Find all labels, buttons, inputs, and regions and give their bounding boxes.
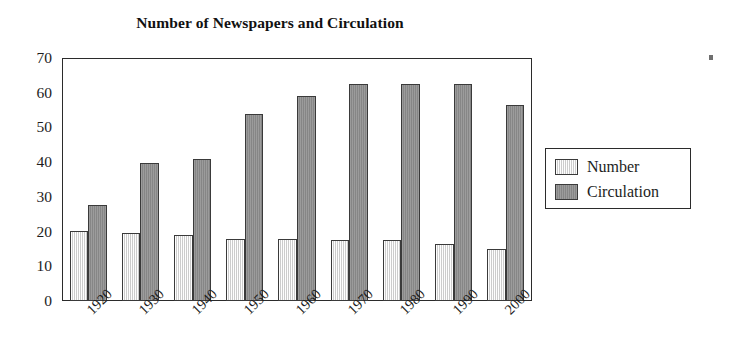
legend-label-number: Number [587, 159, 639, 175]
bar-circulation-1930 [140, 163, 159, 301]
y-tick-label: 40 [0, 154, 52, 170]
y-axis-labels: 010203040506070 [0, 58, 52, 301]
chart-figure: Number of Newspapers and Circulation 010… [0, 0, 731, 362]
bar-number-1970 [331, 240, 350, 301]
bar-circulation-2000 [506, 105, 525, 301]
y-tick-label: 0 [0, 293, 52, 309]
bar-circulation-1970 [349, 84, 368, 301]
y-tick-label: 10 [0, 259, 52, 275]
x-axis-labels: 192019301940195019601970198019902000 [62, 301, 532, 362]
y-tick-label: 70 [0, 50, 52, 66]
bar-circulation-1950 [245, 114, 264, 301]
bar-circulation-1940 [193, 159, 212, 301]
bar-number-1920 [70, 231, 89, 301]
bar-number-2000 [487, 249, 506, 301]
chart-legend: Number Circulation [545, 148, 691, 209]
legend-swatch-number-icon [555, 159, 578, 175]
y-tick-label: 30 [0, 189, 52, 205]
bar-circulation-1980 [401, 84, 420, 301]
legend-swatch-circulation-icon [555, 184, 578, 200]
bar-number-1990 [435, 244, 454, 301]
y-tick-label: 50 [0, 120, 52, 136]
y-tick-label: 60 [0, 85, 52, 101]
bar-number-1960 [278, 239, 297, 301]
legend-entry-circulation: Circulation [555, 179, 690, 204]
bar-circulation-1990 [454, 84, 473, 301]
legend-entry-number: Number [555, 154, 690, 179]
chart-title: Number of Newspapers and Circulation [0, 14, 540, 32]
bar-number-1950 [226, 239, 245, 301]
bars-layer [62, 58, 532, 301]
legend-label-circulation: Circulation [587, 184, 659, 200]
bar-number-1930 [122, 233, 141, 301]
bar-number-1980 [383, 240, 402, 301]
bar-number-1940 [174, 235, 193, 301]
bar-circulation-1960 [297, 96, 316, 301]
y-tick-label: 20 [0, 224, 52, 240]
scan-artifact-speck [709, 55, 713, 60]
